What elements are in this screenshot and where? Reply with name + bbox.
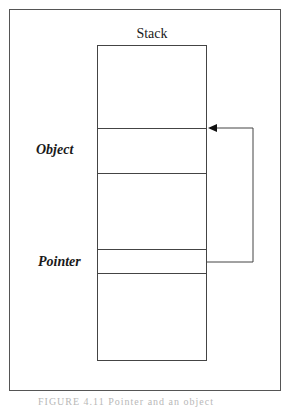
arrowhead-icon <box>208 124 217 132</box>
figure-caption: FIGURE 4.11 Pointer and an object <box>38 396 214 407</box>
